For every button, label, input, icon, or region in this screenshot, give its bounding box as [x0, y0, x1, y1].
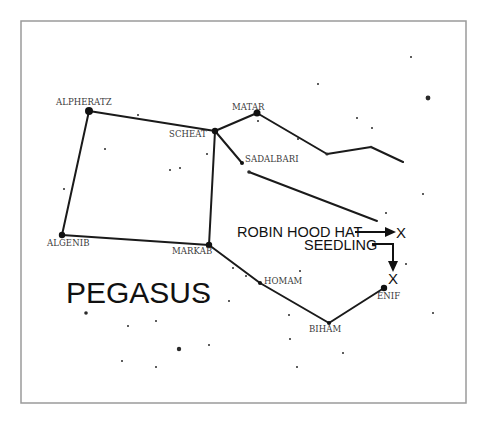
star-dot-icon [299, 270, 301, 272]
star-dot-icon [289, 338, 291, 340]
star-label-algenib: ALGENIB [46, 238, 90, 248]
star-dot-icon [288, 314, 290, 316]
star-label-biham: BIHAM [309, 324, 342, 334]
star-label-sadalbari: SADALBARI [245, 154, 299, 164]
star-label-enif: ENIF [377, 291, 400, 301]
star-dot-icon [84, 311, 88, 315]
star-dot-icon [297, 138, 299, 140]
star-dot-icon [371, 127, 373, 129]
star-dot-icon [402, 161, 404, 163]
star-dot-icon [177, 347, 181, 351]
pegasus-constellation-diagram: ALPHERATZSCHEATMATARSADALBARIALGENIBMARK… [0, 0, 491, 427]
star-dot-icon [247, 170, 251, 174]
star-dot-icon [228, 300, 230, 302]
star-dot-icon [370, 146, 372, 148]
star-dot-icon [257, 120, 259, 122]
star-dot-icon [385, 212, 387, 214]
star-scheat-icon [212, 128, 218, 134]
star-dot-icon [155, 366, 157, 368]
star-dot-icon [325, 152, 328, 155]
callout-label-seedling: SEEDLING [304, 237, 377, 253]
star-dot-icon [342, 352, 344, 354]
star-label-matar: MATAR [232, 102, 265, 112]
star-alpheratz-icon [85, 107, 93, 115]
x-marker-robin-hood-hat: X [396, 224, 406, 241]
star-dot-icon [121, 360, 123, 362]
star-dot-icon [232, 267, 234, 269]
star-label-scheat: SCHEAT [169, 129, 207, 139]
diagram-frame [21, 21, 466, 403]
star-dot-icon [155, 320, 157, 322]
star-dot-icon [356, 117, 358, 119]
star-dot-icon [179, 167, 181, 169]
star-dot-icon [206, 153, 208, 155]
star-dot-icon [169, 169, 171, 171]
star-dot-icon [208, 344, 210, 346]
star-label-homam: HOMAM [264, 276, 303, 286]
star-dot-icon [317, 83, 319, 85]
star-dot-icon [432, 312, 434, 314]
x-marker-seedling: X [388, 270, 398, 287]
star-sadalbari-icon [240, 161, 244, 165]
star-homam-icon [258, 281, 262, 285]
constellation-title: PEGASUS [66, 276, 211, 309]
star-dot-icon [405, 263, 407, 265]
star-dot-icon [137, 114, 139, 116]
star-dot-icon [63, 188, 65, 190]
star-dot-icon [127, 325, 129, 327]
star-dot-icon [410, 56, 412, 58]
star-label-alpheratz: ALPHERATZ [55, 97, 112, 107]
star-dot-icon [426, 96, 431, 101]
star-dot-icon [245, 275, 247, 277]
star-dot-icon [296, 366, 298, 368]
star-dot-icon [104, 148, 106, 150]
star-label-markab: MARKAB [172, 246, 212, 256]
star-dot-icon [422, 193, 424, 195]
